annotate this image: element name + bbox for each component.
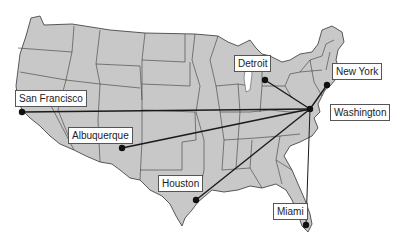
city-marker-albuquerque[interactable] (119, 145, 125, 151)
us-map (0, 0, 394, 248)
label-detroit: Detroit (234, 55, 271, 72)
label-washington: Washington (330, 104, 390, 121)
label-albuquerque: Albuquerque (68, 127, 133, 144)
label-new-york: New York (332, 63, 382, 80)
city-marker-san-francisco[interactable] (19, 109, 25, 115)
city-marker-washington[interactable] (307, 106, 313, 112)
label-san-francisco: San Francisco (15, 90, 87, 107)
city-marker-detroit[interactable] (262, 77, 268, 83)
us-landmass (16, 16, 344, 232)
city-marker-houston[interactable] (193, 197, 199, 203)
city-marker-new-york[interactable] (324, 82, 330, 88)
label-miami: Miami (273, 203, 308, 220)
label-houston: Houston (158, 175, 203, 192)
city-marker-miami[interactable] (303, 222, 309, 228)
